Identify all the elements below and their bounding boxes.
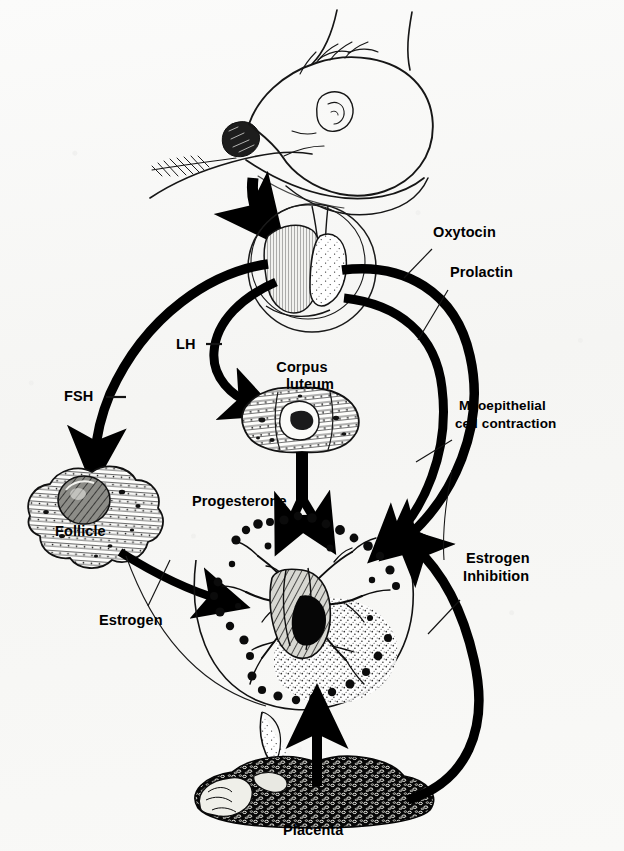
suckling-stimulus-arrow	[252, 178, 262, 219]
label-estrogen-inhibition-line2: Inhibition	[463, 569, 529, 584]
label-myoepithelial-line1: Myoepithelial	[459, 399, 546, 413]
ovarian-follicle-illustration	[28, 466, 163, 568]
estrogen-inhibition-leader	[428, 600, 460, 634]
oxytocin-arrow	[342, 269, 474, 540]
label-estrogen-inhibition-line1: Estrogen	[466, 551, 530, 566]
breast-contour-leader	[126, 556, 266, 706]
label-corpus-luteum-line1: Corpus	[246, 360, 358, 375]
label-myoepithelial-line2: cell contraction	[455, 417, 556, 431]
label-lh: LH	[176, 337, 196, 352]
mammary-gland-illustration	[194, 512, 413, 710]
fsh-arrow	[95, 264, 268, 456]
hormonal-control-figure: Oxytocin Prolactin LH FSH Corpus luteum …	[0, 0, 624, 851]
label-estrogen: Estrogen	[99, 613, 163, 628]
label-corpus-luteum-line2: luteum	[254, 377, 366, 392]
estrogen-arrow	[120, 552, 222, 600]
label-oxytocin: Oxytocin	[433, 225, 496, 240]
label-progesterone: Progesterone	[192, 494, 287, 509]
label-follicle: Follicle	[55, 524, 106, 539]
corpus-luteum-illustration	[242, 388, 359, 453]
label-fsh: FSH	[64, 389, 93, 404]
label-placenta: Placenta	[283, 823, 343, 838]
nursing-infant-illustration	[150, 10, 433, 215]
label-prolactin: Prolactin	[450, 265, 513, 280]
oxytocin-leader	[404, 249, 432, 278]
